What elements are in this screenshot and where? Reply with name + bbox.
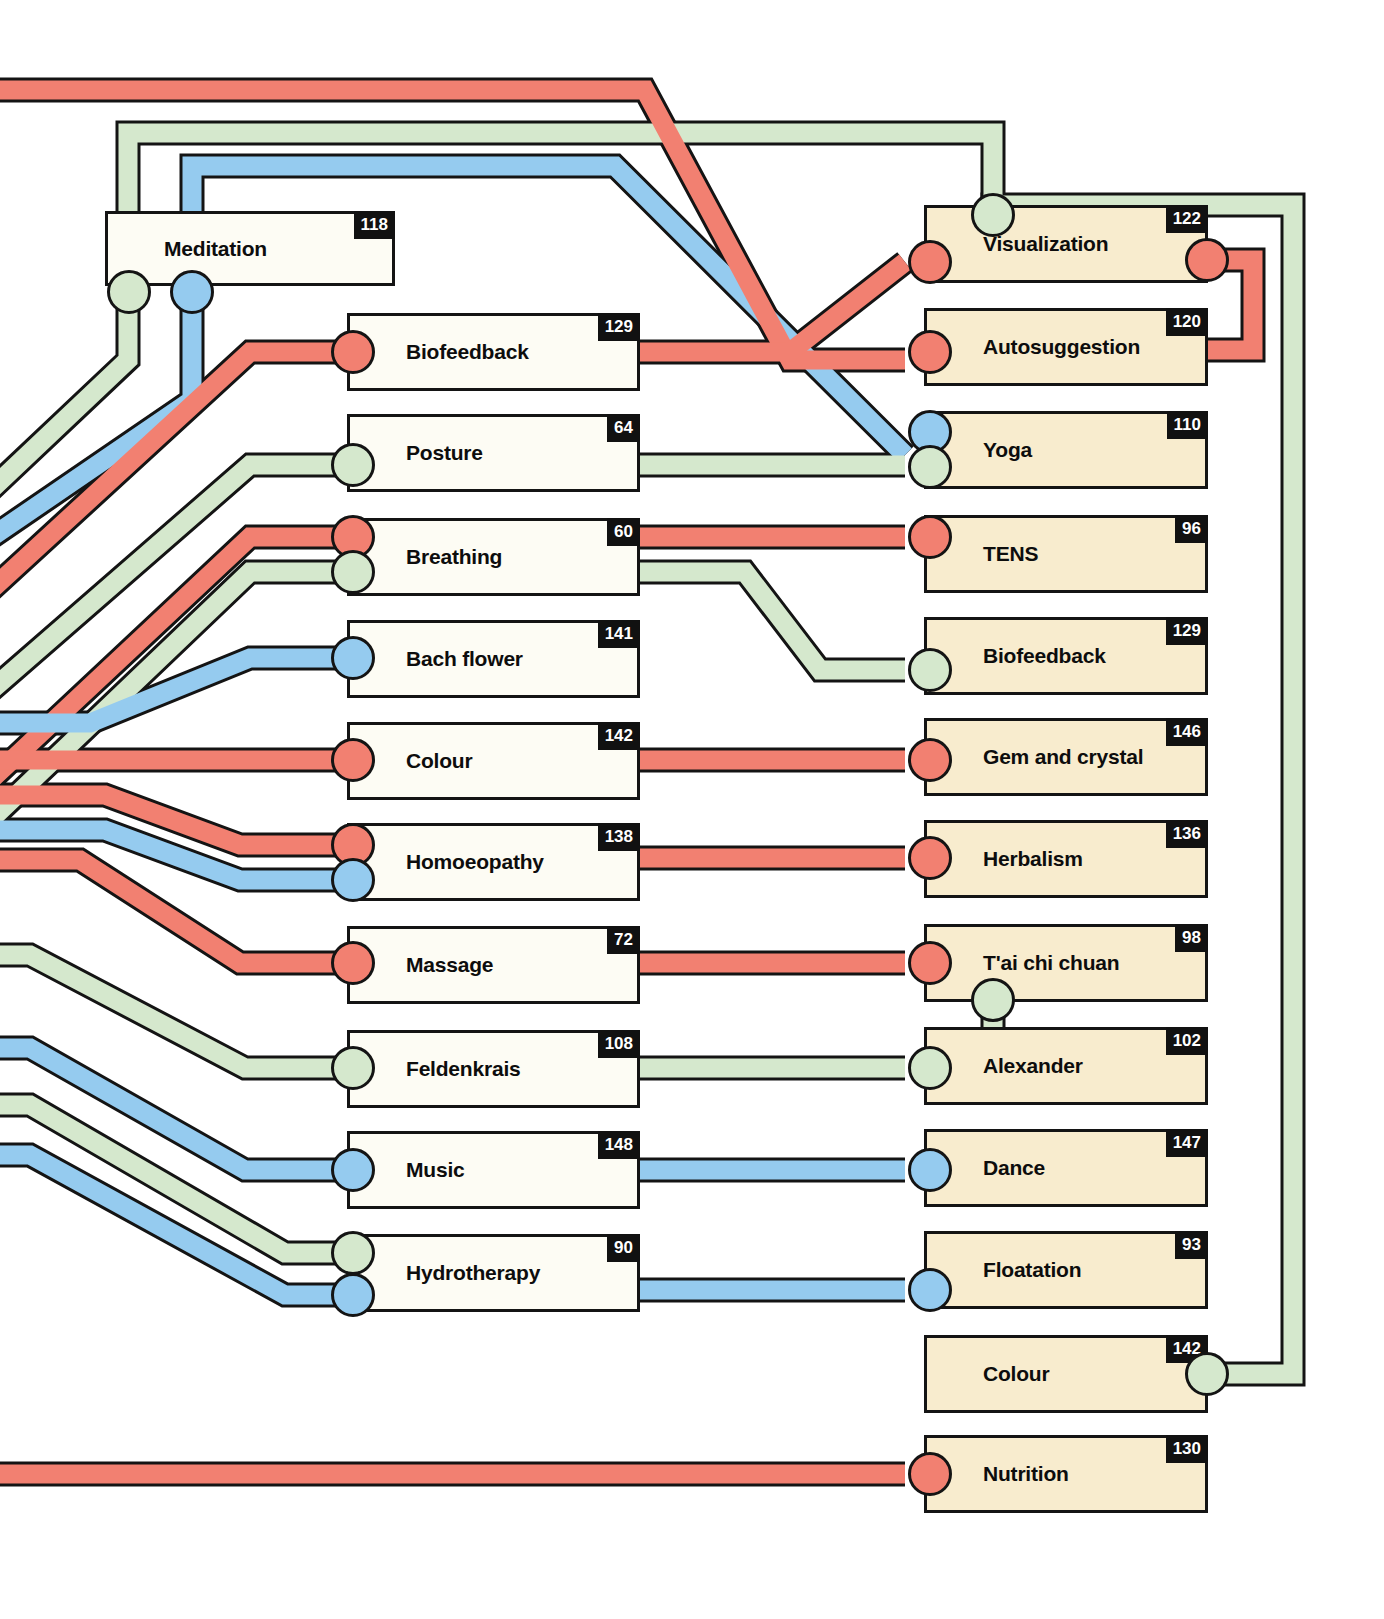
knob-homoeopathy-blue[interactable] [331, 858, 375, 902]
node-badge: 60 [607, 518, 640, 546]
node-alexander[interactable]: Alexander 102 [924, 1027, 1208, 1105]
node-bach-flower[interactable]: Bach flower 141 [347, 620, 640, 698]
node-badge: 110 [1167, 411, 1208, 439]
node-label: Gem and crystal [983, 745, 1143, 769]
node-badge: 129 [598, 313, 640, 341]
knob-meditation-blue[interactable] [170, 270, 214, 314]
node-music[interactable]: Music 148 [347, 1131, 640, 1209]
knob-colour-right-green[interactable] [1185, 1352, 1229, 1396]
node-label: Colour [983, 1362, 1049, 1386]
node-label: Massage [406, 953, 493, 977]
node-badge: 93 [1175, 1231, 1208, 1259]
node-label: Posture [406, 441, 483, 465]
knob-biofeedback-left-red[interactable] [331, 330, 375, 374]
knob-floatation-blue[interactable] [908, 1268, 952, 1312]
node-badge: 130 [1166, 1435, 1208, 1463]
node-label: Floatation [983, 1258, 1081, 1282]
node-label: Yoga [983, 438, 1032, 462]
knob-visualization-red[interactable] [908, 240, 952, 284]
node-badge: 98 [1175, 924, 1208, 952]
node-label: TENS [983, 542, 1038, 566]
knob-alexander-green[interactable] [908, 1046, 952, 1090]
node-label: Hydrotherapy [406, 1261, 540, 1285]
node-biofeedback-right[interactable]: Biofeedback 129 [924, 617, 1208, 695]
knob-autosuggestion-red[interactable] [908, 330, 952, 374]
node-badge: 136 [1166, 820, 1208, 848]
node-badge: 108 [598, 1030, 640, 1058]
node-nutrition[interactable]: Nutrition 130 [924, 1435, 1208, 1513]
node-massage[interactable]: Massage 72 [347, 926, 640, 1004]
knob-meditation-green[interactable] [107, 270, 151, 314]
node-label: Herbalism [983, 847, 1083, 871]
node-badge: 142 [598, 722, 640, 750]
knob-hydrotherapy-green[interactable] [331, 1231, 375, 1275]
node-label: Colour [406, 749, 472, 773]
knob-bach-flower-blue[interactable] [331, 636, 375, 680]
node-homoeopathy[interactable]: Homoeopathy 138 [347, 823, 640, 901]
node-label: Nutrition [983, 1462, 1069, 1486]
node-posture[interactable]: Posture 64 [347, 414, 640, 492]
node-label: Visualization [983, 232, 1108, 256]
node-label: Biofeedback [406, 340, 529, 364]
node-biofeedback-left[interactable]: Biofeedback 129 [347, 313, 640, 391]
node-feldenkrais[interactable]: Feldenkrais 108 [347, 1030, 640, 1108]
diagram-canvas: .w{fill:none;stroke-width:19;stroke-line… [0, 0, 1384, 1619]
node-tens[interactable]: TENS 96 [924, 515, 1208, 593]
knob-gem-and-crystal-red[interactable] [908, 738, 952, 782]
node-badge: 120 [1166, 308, 1208, 336]
knob-dance-blue[interactable] [908, 1148, 952, 1192]
node-badge: 90 [607, 1234, 640, 1262]
knob-biofeedback-right-green[interactable] [908, 648, 952, 692]
knob-feldenkrais-green[interactable] [331, 1046, 375, 1090]
node-visualization[interactable]: Visualization 122 [924, 205, 1208, 283]
node-yoga[interactable]: Yoga 110 [924, 411, 1208, 489]
node-badge: 64 [607, 414, 640, 442]
node-label: Dance [983, 1156, 1045, 1180]
knob-music-blue[interactable] [331, 1148, 375, 1192]
knob-nutrition-red[interactable] [908, 1452, 952, 1496]
node-floatation[interactable]: Floatation 93 [924, 1231, 1208, 1309]
node-badge: 72 [607, 926, 640, 954]
node-colour-left[interactable]: Colour 142 [347, 722, 640, 800]
knob-tai-chi-chuan-bottom-green[interactable] [971, 978, 1015, 1022]
node-badge: 129 [1166, 617, 1208, 645]
node-breathing[interactable]: Breathing 60 [347, 518, 640, 596]
knob-massage-red[interactable] [331, 941, 375, 985]
node-badge: 148 [598, 1131, 640, 1159]
node-colour-right[interactable]: Colour 142 [924, 1335, 1208, 1413]
knob-yoga-green[interactable] [908, 445, 952, 489]
node-label: Feldenkrais [406, 1057, 521, 1081]
node-badge: 96 [1175, 515, 1208, 543]
node-label: Meditation [164, 237, 267, 261]
node-autosuggestion[interactable]: Autosuggestion 120 [924, 308, 1208, 386]
node-label: T'ai chi chuan [983, 951, 1119, 975]
node-label: Autosuggestion [983, 335, 1140, 359]
node-label: Breathing [406, 545, 502, 569]
node-badge: 118 [354, 211, 395, 239]
knob-visualization-top-green[interactable] [971, 193, 1015, 237]
node-badge: 147 [1166, 1129, 1208, 1157]
node-badge: 102 [1166, 1027, 1208, 1055]
node-label: Bach flower [406, 647, 523, 671]
node-label: Biofeedback [983, 644, 1106, 668]
node-gem-and-crystal[interactable]: Gem and crystal 146 [924, 718, 1208, 796]
knob-posture-green[interactable] [331, 443, 375, 487]
node-tai-chi-chuan[interactable]: T'ai chi chuan 98 [924, 924, 1208, 1002]
node-badge: 141 [598, 620, 640, 648]
node-herbalism[interactable]: Herbalism 136 [924, 820, 1208, 898]
knob-tai-chi-chuan-red[interactable] [908, 941, 952, 985]
node-dance[interactable]: Dance 147 [924, 1129, 1208, 1207]
node-label: Alexander [983, 1054, 1083, 1078]
knob-hydrotherapy-blue[interactable] [331, 1273, 375, 1317]
node-badge: 146 [1166, 718, 1208, 746]
knob-colour-left-red[interactable] [331, 738, 375, 782]
knob-herbalism-red[interactable] [908, 836, 952, 880]
knob-visualization-right-red[interactable] [1185, 238, 1229, 282]
node-meditation[interactable]: Meditation 118 [105, 211, 395, 286]
node-hydrotherapy[interactable]: Hydrotherapy 90 [347, 1234, 640, 1312]
knob-tens-red[interactable] [908, 515, 952, 559]
knob-breathing-green[interactable] [331, 550, 375, 594]
node-badge: 138 [598, 823, 640, 851]
node-label: Music [406, 1158, 465, 1182]
node-badge: 122 [1166, 205, 1208, 233]
